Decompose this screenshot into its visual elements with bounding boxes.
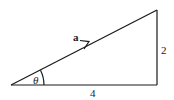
horizontal-side-label: 4 [90, 87, 96, 99]
vector-label: a [73, 31, 79, 43]
triangle-diagram: a θ 2 4 [0, 0, 174, 100]
angle-label: θ [33, 74, 39, 86]
arrowhead-icon [80, 41, 89, 50]
angle-arc [41, 70, 45, 85]
vertical-side-label: 2 [161, 44, 167, 56]
